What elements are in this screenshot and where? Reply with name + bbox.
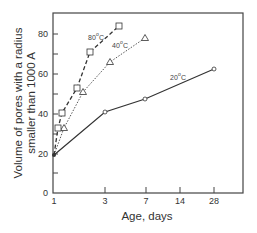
svg-text:20: 20 [170,74,178,81]
series-40c [54,35,149,156]
y-tick-label: 0 [43,188,48,198]
label-80c: 80 o C [88,31,104,41]
y-tick-label: 40 [38,109,48,119]
y-axis-label-line1: Volume of pores with a radius [12,27,24,178]
y-tick-label: 80 [38,29,48,39]
x-tick-label: 28 [209,196,219,206]
y-tick-label: 20 [38,149,48,159]
chart: 0 20 40 60 80 1 3 7 14 28 Age, days Volu… [0,0,257,233]
x-tick-label: 3 [102,196,107,206]
x-tick-label: 7 [143,196,148,206]
svg-text:C: C [123,42,128,49]
svg-text:80: 80 [88,34,96,41]
svg-text:C: C [99,34,104,41]
origin-point [52,153,56,157]
svg-text:C: C [181,74,186,81]
series-20c [54,67,216,155]
svg-text:40: 40 [112,42,120,49]
label-20c: 20 o C [170,71,186,81]
y-tick-label: 60 [38,69,48,79]
label-40c: 40 o C [112,39,128,49]
x-tick-label: 1 [51,196,56,206]
x-axis [105,187,214,193]
x-tick-label: 14 [175,196,185,206]
y-axis-label-line2: smaller than 1000 A [25,52,37,154]
x-axis-label: Age, days [121,210,172,222]
